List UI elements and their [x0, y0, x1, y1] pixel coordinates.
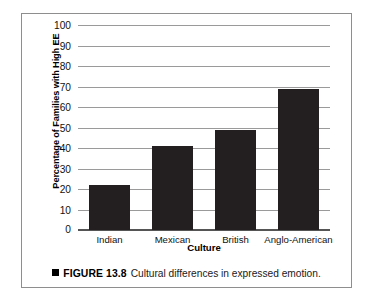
- y-tick-label: 80: [60, 61, 71, 72]
- plot-area: 0102030405060708090100IndianMexicanBriti…: [78, 25, 330, 230]
- y-tick-label: 20: [60, 184, 71, 195]
- y-tick-label: 100: [54, 20, 71, 31]
- caption-line: FIGURE 13.8 Cultural differences in expr…: [52, 268, 321, 279]
- bar: [278, 89, 319, 230]
- square-bullet-icon: [52, 269, 59, 276]
- bar: [89, 185, 130, 230]
- y-tick-label: 60: [60, 102, 71, 113]
- y-tick-label: 0: [65, 224, 71, 235]
- bar-chart: Percentage of Families with High EE 0102…: [22, 14, 351, 257]
- caption-description: Cultural differences in expressed emotio…: [131, 268, 321, 279]
- y-tick-label: 70: [60, 81, 71, 92]
- y-tick-label: 30: [60, 163, 71, 174]
- gridline: 80: [78, 66, 330, 67]
- y-tick-label: 40: [60, 143, 71, 154]
- figure-caption: FIGURE 13.8 Cultural differences in expr…: [22, 260, 351, 287]
- y-tick-label: 50: [60, 122, 71, 133]
- x-axis-title: Culture: [78, 242, 330, 253]
- bar: [152, 146, 193, 230]
- caption-figure-label: FIGURE 13.8: [63, 268, 126, 279]
- y-tick-label: 90: [60, 40, 71, 51]
- y-tick-label: 10: [60, 204, 71, 215]
- figure-frame: Percentage of Families with High EE 0102…: [21, 13, 352, 288]
- gridline: 90: [78, 46, 330, 47]
- bar: [215, 130, 256, 230]
- gridline: 70: [78, 87, 330, 88]
- gridline: 100: [78, 25, 330, 26]
